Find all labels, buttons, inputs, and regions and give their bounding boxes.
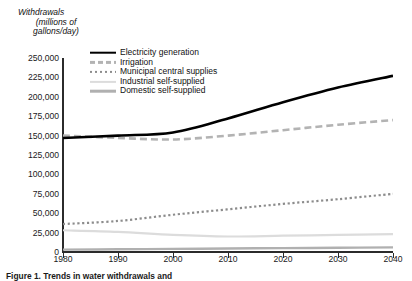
x-tick-label: 1980 [53,254,72,264]
legend-item: Domestic self-supplied [90,86,300,96]
y-axis-title-line-3: gallons/day) [18,27,94,37]
x-tick-label: 2040 [383,254,402,264]
series-line-municipal-central-supplies [63,194,393,224]
y-tick-label: 225,000 [7,72,59,82]
y-tick-label: 25,000 [7,228,59,238]
y-axis-tick-labels: 025,00050,00075,000100,000125,000150,000… [3,58,59,252]
y-tick-label: 200,000 [7,92,59,102]
legend-label: Domestic self-supplied [120,86,206,96]
y-tick-label: 50,000 [7,208,59,218]
legend-swatch-icon [90,87,116,96]
x-tick-label: 2010 [218,254,237,264]
x-tick-label: 1990 [108,254,127,264]
y-tick-label: 100,000 [7,169,59,179]
y-tick-label: 250,000 [7,53,59,63]
y-tick-label: 150,000 [7,131,59,141]
legend-swatch-icon [90,77,116,86]
legend-swatch-icon [90,67,116,76]
legend-swatch-icon [90,48,116,57]
figure-caption: Figure 1. Trends in water withdrawals an… [6,271,172,281]
figure-container: Withdrawals (millions of gallons/day) 02… [0,0,412,281]
x-tick-label: 2030 [328,254,347,264]
y-tick-label: 75,000 [7,189,59,199]
y-axis-title-line-1: Withdrawals [18,7,64,17]
series-line-domestic-self-supplied [63,247,393,249]
y-tick-label: 125,000 [7,150,59,160]
x-tick-label: 2000 [163,254,182,264]
y-tick-label: 175,000 [7,111,59,121]
legend-swatch-icon [90,58,116,67]
y-tick-label: 0 [7,247,59,257]
chart-legend: Electricity generationIrrigationMunicipa… [90,48,300,96]
x-axis-tick-labels: 1980199020002010202020302040 [63,254,393,268]
x-tick-label: 2020 [273,254,292,264]
series-line-industrial-self-supplied [63,230,393,236]
y-axis-title: Withdrawals (millions of gallons/day) [18,8,94,37]
